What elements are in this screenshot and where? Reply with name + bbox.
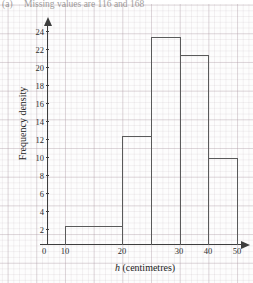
bar-10-20 [65,226,123,245]
y-tick-label-18: 18 [28,82,44,90]
y-tick-16 [46,103,49,104]
x-axis-title: h (centimetres) [40,262,250,273]
y-tick-6 [46,193,49,194]
y-tick-24 [46,31,49,32]
y-tick-22 [46,49,49,50]
y-tick-4 [46,211,49,212]
y-tick-8 [46,175,49,176]
histogram-plot: 2 4 6 8 10 12 14 16 18 20 22 24 0 10 20 … [0,0,253,283]
y-tick-label-22: 22 [28,46,44,54]
y-tick-label-4: 4 [28,208,44,216]
question-heading: (a)Missing values are 116 and 168 [2,0,251,10]
y-tick-label-2: 2 [28,226,44,234]
y-tick-label-8: 8 [28,172,44,180]
x-tick-label-20: 20 [112,247,132,256]
question-tag: (a) [2,0,24,10]
x-tick-label-0: 0 [34,247,54,256]
x-tick-label-30: 30 [169,247,189,256]
y-tick-10 [46,157,49,158]
x-tick-label-50: 50 [227,247,247,256]
y-tick-14 [46,121,49,122]
y-tick-12 [46,139,49,140]
x-axis-title-symbol: h [115,262,120,273]
y-tick-label-6: 6 [28,190,44,198]
bar-30-35 [151,37,181,245]
y-tick-label-20: 20 [28,64,44,72]
x-tick-label-40: 40 [198,247,218,256]
y-tick-label-16: 16 [28,100,44,108]
y-tick-label-24: 24 [28,28,44,36]
y-tick-label-12: 12 [28,136,44,144]
y-tick-2 [46,229,49,230]
y-axis-arrowhead [44,17,52,26]
bar-20-30 [122,136,152,245]
y-axis-title: Frequency density [17,49,28,199]
y-tick-20 [46,67,49,68]
bar-35-40 [180,55,209,245]
x-axis-title-unit: (centimetres) [122,262,175,273]
y-tick-label-14: 14 [28,118,44,126]
bar-40-50 [208,158,238,245]
question-text: Missing values are 116 and 168 [24,0,144,9]
y-tick-label-10: 10 [28,154,44,162]
x-tick-label-10: 10 [55,247,75,256]
y-tick-18 [46,85,49,86]
